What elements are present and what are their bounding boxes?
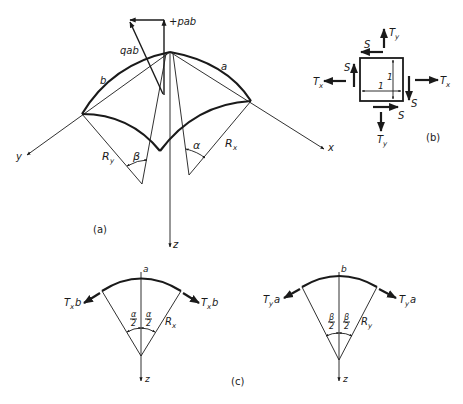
svg-text:b: b: [75, 297, 81, 308]
beta-label: β: [132, 150, 140, 163]
panel-c-label: (c): [231, 376, 244, 387]
lower-edge-right: [160, 101, 251, 151]
ty-top-label: T y: [389, 27, 400, 41]
s-bottom-label: S: [398, 110, 405, 121]
dimension-horizontal-label: 1: [378, 81, 384, 91]
half-beta-right-label: β 2: [343, 313, 350, 331]
tya-right-label: T y a: [399, 294, 416, 308]
unit-element-square: [360, 58, 403, 101]
svg-text:x: x: [445, 81, 451, 89]
ry-c-label: R y: [361, 316, 373, 330]
svg-text:a: a: [274, 294, 280, 305]
z-axis-label: z: [172, 239, 179, 250]
edge-b-label: b: [100, 75, 106, 86]
svg-text:2: 2: [131, 319, 136, 328]
svg-text:y: y: [367, 322, 373, 330]
arc-a-top-label: a: [143, 264, 149, 274]
s-top-label: S: [364, 39, 371, 50]
svg-text:y: y: [382, 140, 388, 148]
svg-text:x: x: [318, 82, 324, 90]
z-c-right-label: z: [342, 374, 348, 384]
rx-line: [189, 101, 251, 175]
txb-right-arrow: [183, 293, 199, 303]
half-alpha-arc-right: [141, 328, 155, 332]
edge-a-label: a: [221, 61, 227, 72]
arc-b: [302, 276, 377, 287]
tx-left-label: T x: [313, 76, 324, 90]
half-alpha-arc-left: [127, 328, 141, 332]
panel-c-left: a T x b T x b α 2 α 2 R x z: [64, 264, 218, 384]
pab-label: +pab: [169, 16, 196, 27]
half-alpha-right-label: α 2: [145, 310, 152, 328]
dimension-vertical-label: 1: [387, 72, 393, 82]
rx-apex-line: [173, 54, 189, 175]
tya-right-arrow: [379, 289, 396, 298]
txb-left-label: T x b: [64, 297, 81, 311]
svg-text:β: β: [328, 313, 334, 322]
qab-label: qab: [120, 45, 139, 56]
svg-text:α: α: [131, 310, 137, 319]
svg-text:β: β: [343, 313, 349, 322]
txb-right-label: T x b: [201, 297, 218, 311]
half-alpha-left-label: α 2: [130, 310, 137, 328]
txb-left-arrow: [84, 293, 100, 303]
panel-c-right: b T y a T y a β 2 β 2 R y z: [263, 264, 416, 384]
svg-text:2: 2: [329, 322, 334, 331]
svg-text:x: x: [232, 144, 238, 152]
arc-a: [102, 279, 181, 292]
svg-text:2: 2: [344, 322, 349, 331]
svg-text:x: x: [171, 322, 177, 330]
shell-element-diagram: +pab qab b a y x z β α R y R x (a) 1 1 T…: [0, 0, 463, 404]
z-c-left-label: z: [144, 374, 150, 384]
ry-line: [82, 114, 142, 184]
svg-text:R: R: [225, 137, 233, 150]
s-right-label: S: [411, 98, 418, 109]
ry-label: R y: [102, 150, 115, 165]
svg-text:y: y: [109, 157, 115, 165]
qab-arrow: [130, 22, 163, 94]
svg-text:2: 2: [146, 319, 151, 328]
panel-a: +pab qab b a y x z β α R y R x (a): [15, 16, 334, 250]
tya-left-arrow: [284, 289, 300, 298]
lower-edge-left: [82, 114, 160, 151]
svg-text:α: α: [146, 310, 152, 319]
svg-text:R: R: [165, 316, 172, 327]
half-beta-left-label: β 2: [328, 313, 335, 331]
svg-text:y: y: [394, 33, 400, 41]
half-beta-arc-left: [326, 333, 339, 336]
svg-text:R: R: [102, 150, 110, 163]
y-axis-label: y: [15, 151, 23, 162]
panel-b: 1 1 T y T y T x T x S S S: [313, 27, 451, 148]
tx-right-label: T x: [440, 75, 451, 89]
rx-c-label: R x: [165, 316, 177, 330]
svg-text:R: R: [361, 316, 368, 327]
s-left-label: S: [344, 62, 351, 73]
alpha-label: α: [193, 139, 201, 152]
rx-label: R x: [225, 137, 238, 152]
svg-text:b: b: [212, 297, 218, 308]
arc-b-top-label: b: [341, 264, 347, 274]
tya-left-label: T y a: [263, 294, 280, 308]
panel-b-label: (b): [426, 132, 440, 143]
svg-text:a: a: [410, 294, 416, 305]
x-axis-label: x: [327, 142, 334, 153]
panel-a-label: (a): [93, 224, 107, 235]
half-beta-arc-right: [339, 333, 352, 336]
ty-bottom-label: T y: [377, 134, 388, 148]
